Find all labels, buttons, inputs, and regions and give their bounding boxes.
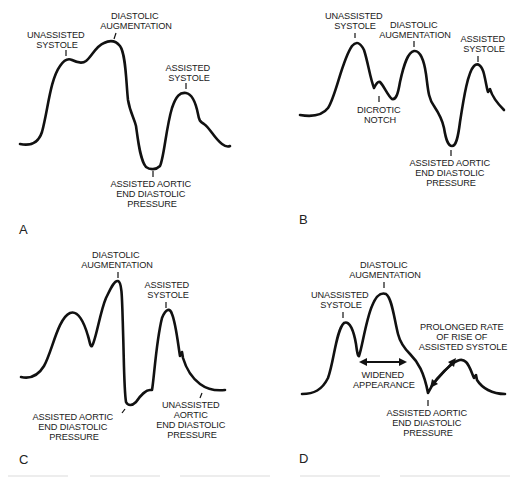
figure-canvas: UNASSISTED SYSTOLE DIASTOLIC AUGMENTATIO… (0, 0, 520, 479)
tick-diastolic-augmentation (114, 33, 116, 39)
panel-a: UNASSISTED SYSTOLE DIASTOLIC AUGMENTATIO… (19, 11, 230, 237)
label-assisted-aortic-edp: ASSISTED AORTIC END DIASTOLIC PRESSURE (410, 158, 493, 188)
label-dicrotic-notch: DICROTIC NOTCH (357, 105, 403, 125)
prolonged-rise-arrow (430, 358, 456, 388)
label-assisted-aortic-edp: ASSISTED AORTIC END DIASTOLIC PRESSURE (387, 408, 470, 438)
label-assisted-systole: ASSISTED SYSTOLE (144, 280, 191, 300)
label-assisted-systole: ASSISTED SYSTOLE (460, 34, 507, 54)
panel-d: DIASTOLIC AUGMENTATION UNASSISTED SYSTOL… (299, 260, 507, 466)
label-unassisted-systole: UNASSISTED SYSTOLE (311, 290, 371, 310)
panel-letter-c: C (19, 452, 28, 467)
label-diastolic-augmentation: DIASTOLIC AUGMENTATION (349, 260, 420, 280)
label-assisted-systole: ASSISTED SYSTOLE (165, 63, 212, 83)
panel-b-waveform (300, 43, 504, 146)
panel-letter-b: B (299, 212, 308, 227)
label-diastolic-augmentation: DIASTOLIC AUGMENTATION (379, 20, 450, 40)
label-unassisted-systole: UNASSISTED SYSTOLE (325, 11, 385, 31)
label-diastolic-augmentation: DIASTOLIC AUGMENTATION (100, 11, 171, 31)
widened-appearance-arrow (359, 358, 407, 366)
panel-c-waveform (21, 281, 225, 405)
label-prolonged-rate: PROLONGED RATE OF RISE OF ASSISTED SYSTO… (419, 322, 508, 352)
label-assisted-aortic-edp: ASSISTED AORTIC END DIASTOLIC PRESSURE (111, 179, 194, 209)
label-unassisted-systole: UNASSISTED SYSTOLE (27, 30, 87, 50)
label-assisted-aortic-edp: ASSISTED AORTIC END DIASTOLIC PRESSURE (33, 412, 116, 442)
panel-a-waveform (20, 41, 230, 169)
panel-letter-d: D (299, 451, 308, 466)
tick-unassisted-aortic-edp (200, 393, 202, 398)
label-unassisted-aortic-edp: UNASSISTED AORTIC END DIASTOLIC PRESSURE (156, 400, 227, 440)
iabp-waveform-figure: UNASSISTED SYSTOLE DIASTOLIC AUGMENTATIO… (0, 0, 520, 479)
tick-assisted-aortic-edp (122, 409, 125, 413)
panel-b: UNASSISTED SYSTOLE DIASTOLIC AUGMENTATIO… (299, 11, 508, 227)
label-widened-appearance: WIDENED APPEARANCE (353, 370, 415, 390)
caption-strip (8, 475, 510, 477)
panel-letter-a: A (19, 222, 28, 237)
label-diastolic-augmentation: DIASTOLIC AUGMENTATION (81, 250, 152, 270)
panel-c: DIASTOLIC AUGMENTATION ASSISTED SYSTOLE … (19, 250, 228, 467)
